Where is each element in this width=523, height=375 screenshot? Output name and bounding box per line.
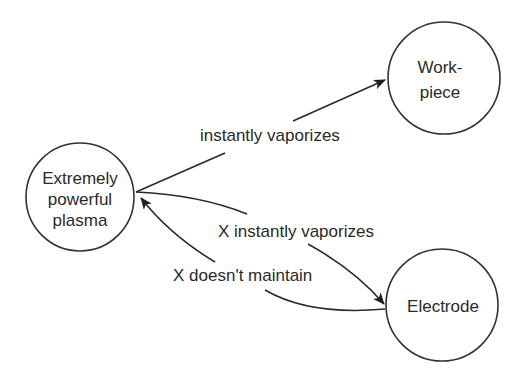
edge-segment [136,153,225,192]
diagram: instantly vaporizes X instantly vaporize… [0,0,523,375]
edge-segment-arrow [141,198,215,262]
node-label-line: plasma [53,211,108,230]
edge-label-x-doesnt-maintain: X doesn't maintain [173,266,312,285]
node-workpiece: Work- piece [388,22,500,134]
edge-label-x-instantly-vaporizes: X instantly vaporizes [218,222,374,241]
edge-electrode-to-plasma: X doesn't maintain [141,198,385,310]
node-label-line: Work- [417,58,462,77]
edge-segment-arrow [293,80,385,121]
node-label-line: Extremely [42,169,118,188]
node-electrode: Electrode [386,249,498,361]
node-label-line: piece [420,83,461,102]
edge-segment-arrow [308,244,384,304]
node-label-line: Electrode [407,297,479,316]
node-extremely-powerful-plasma: Extremely powerful plasma [26,143,134,251]
node-circle [388,22,500,134]
edge-segment [265,290,385,310]
edge-plasma-to-electrode: X instantly vaporizes [136,192,384,304]
edge-plasma-to-workpiece: instantly vaporizes [136,80,385,192]
node-label-line: powerful [48,190,112,209]
edge-label-instantly-vaporizes: instantly vaporizes [200,126,340,145]
